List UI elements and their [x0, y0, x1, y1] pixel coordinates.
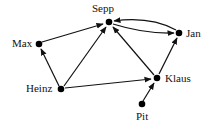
edge-heinz-klaus [65, 79, 151, 88]
label-klaus: Klaus [165, 73, 191, 84]
graph-canvas [0, 0, 212, 127]
edge-klaus-sepp [113, 27, 154, 75]
label-jan: Jan [186, 28, 201, 39]
label-max: Max [12, 38, 32, 49]
node-jan [176, 30, 183, 37]
label-heinz: Heinz [26, 83, 52, 94]
edge-pit-klaus [143, 83, 154, 101]
edge-jan-sepp [114, 20, 176, 30]
node-max [36, 41, 43, 48]
label-sepp: Sepp [92, 3, 114, 14]
node-klaus [154, 75, 161, 82]
node-sepp [106, 19, 113, 26]
node-heinz [58, 86, 65, 93]
edge-klaus-jan [159, 38, 177, 74]
node-pit [139, 101, 146, 108]
edge-max-sepp [42, 24, 103, 42]
label-pit: Pit [136, 111, 148, 122]
edge-heinz-max [41, 49, 59, 86]
edge-heinz-sepp [64, 27, 106, 86]
